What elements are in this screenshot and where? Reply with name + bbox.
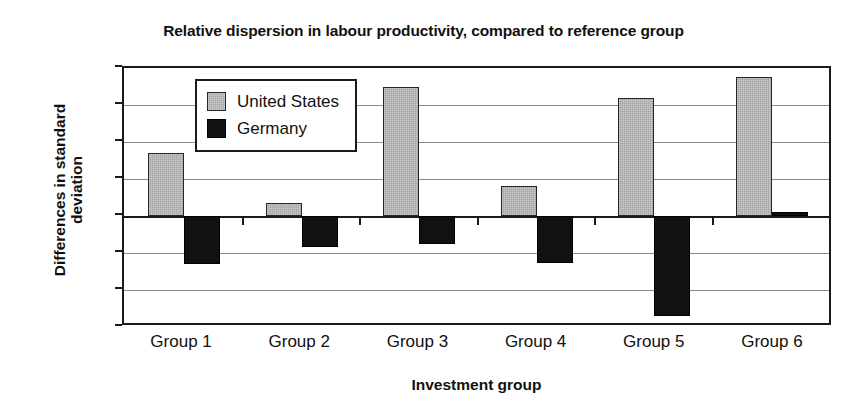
bar-united-states [736,77,772,216]
bar-germany [537,216,573,263]
y-tick-mark [115,324,122,326]
x-tick-label: Group 6 [713,332,831,352]
legend: United States Germany [195,79,357,152]
x-tick-label: Group 2 [240,332,358,352]
bar-group [594,68,712,323]
legend-swatch-icon-germany [207,119,226,138]
y-tick-mark [115,213,122,215]
bar-united-states [383,87,419,217]
y-axis-title-text: Differences in standard deviation [51,104,86,276]
bar-united-states [618,98,654,216]
bar-germany [302,216,338,247]
bar-group [359,68,477,323]
legend-label-germany: Germany [237,119,307,139]
x-tick-label: Group 1 [122,332,240,352]
x-tick-mark [242,216,244,225]
bar-germany [772,212,808,216]
bar-germany [654,216,690,316]
legend-label-united-states: United States [237,92,339,112]
legend-swatch-icon-united-states [207,92,226,111]
bar-united-states [148,153,184,216]
x-tick-mark [477,216,479,225]
x-tick-label: Group 4 [477,332,595,352]
x-axis-ticks: Group 1Group 2Group 3Group 4Group 5Group… [122,332,831,352]
y-tick-mark [115,176,122,178]
bar-group [712,68,830,323]
x-tick-label: Group 3 [358,332,476,352]
y-tick-mark [115,65,122,67]
x-axis-title: Investment group [122,376,831,394]
y-tick-mark [115,139,122,141]
bar-germany [184,216,220,264]
x-tick-label: Group 5 [595,332,713,352]
bar-group [477,68,595,323]
legend-item-united-states: United States [207,88,339,115]
x-tick-mark [712,216,714,225]
y-tick-mark [115,250,122,252]
chart-title: Relative dispersion in labour productivi… [0,22,847,40]
x-tick-mark [359,216,361,225]
bar-united-states [266,203,302,216]
x-tick-mark [594,216,596,225]
y-tick-mark [115,102,122,104]
chart-figure: Relative dispersion in labour productivi… [0,0,847,418]
legend-item-germany: Germany [207,115,339,142]
bar-united-states [501,186,537,216]
y-tick-mark [115,287,122,289]
bar-germany [419,216,455,244]
